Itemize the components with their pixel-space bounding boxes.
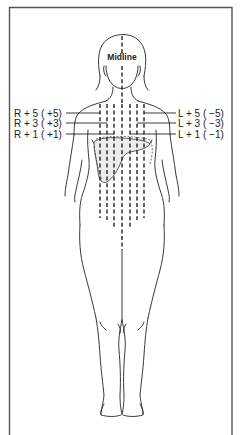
leader-lines <box>66 113 176 134</box>
label-l1: L + 1 ( −1) <box>178 129 224 140</box>
label-r3: R + 3 ( +3) <box>14 118 62 129</box>
legs <box>96 250 148 417</box>
label-l3: L + 3 ( −3) <box>178 118 224 129</box>
diagram-frame <box>10 8 233 435</box>
body-diagram: Midline R + 5 ( +5) R + 3 ( +3) R + 1 ( … <box>0 0 244 435</box>
midline-label: Midline <box>107 52 137 62</box>
label-r1: R + 1 ( +1) <box>14 129 62 140</box>
